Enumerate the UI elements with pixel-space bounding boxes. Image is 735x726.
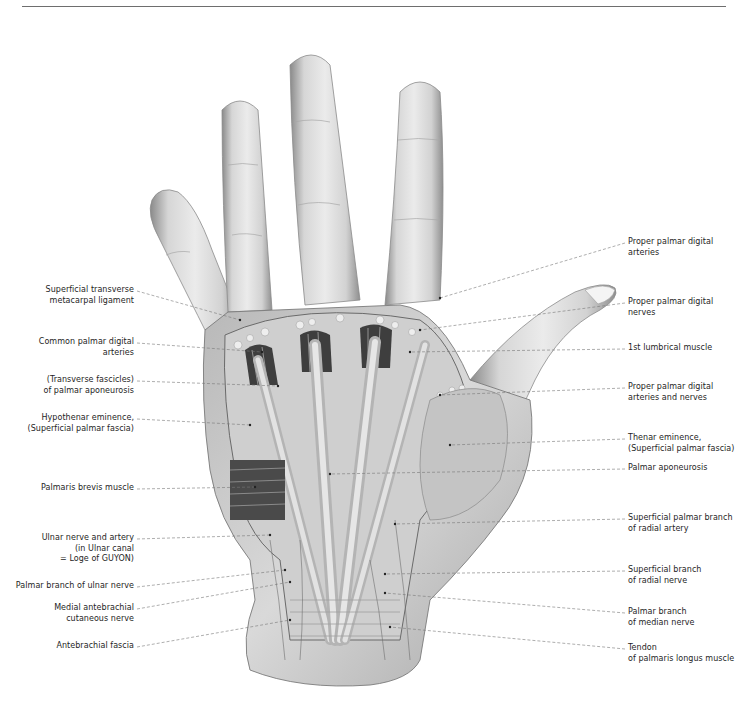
label-line: of radial artery xyxy=(628,524,733,535)
leader-line xyxy=(420,303,625,330)
leader-dot xyxy=(289,581,291,583)
leader-dot xyxy=(249,424,251,426)
label-line: arteries xyxy=(39,348,134,359)
leader-dot xyxy=(239,319,241,321)
label-tendon-palmaris-longus: Tendonof palmaris longus muscle xyxy=(628,643,734,664)
label-proper-palmar-digital-arteries-and-nerves: Proper palmar digitalarteries and nerves xyxy=(628,382,713,403)
leader-dot xyxy=(384,573,386,575)
leader-dot xyxy=(409,351,411,353)
leader-dot xyxy=(439,297,441,299)
leader-dot xyxy=(269,534,271,536)
label-line: Tendon xyxy=(628,643,734,654)
label-line: arteries xyxy=(628,248,713,259)
leader-line xyxy=(390,627,625,649)
label-antebrachial-fascia: Antebrachial fascia xyxy=(56,641,134,652)
label-line: 1st lumbrical muscle xyxy=(628,343,712,354)
label-line: Superficial palmar branch xyxy=(628,513,733,524)
label-palmar-aponeurosis: Palmar aponeurosis xyxy=(628,463,708,474)
label-line: cutaneous nerve xyxy=(54,614,134,625)
label-line: Common palmar digital xyxy=(39,337,134,348)
label-line: = Loge of GUYON) xyxy=(42,554,134,565)
label-line: Proper palmar digital xyxy=(628,382,713,393)
label-palmar-branch-ulnar-nerve: Palmar branch of ulnar nerve xyxy=(16,581,134,592)
label-line: Ulnar nerve and artery xyxy=(42,533,134,544)
label-line: Medial antebrachial xyxy=(54,603,134,614)
label-line: metacarpal ligament xyxy=(46,296,134,307)
label-thenar-eminence: Thenar eminence,(Superficial palmar fasc… xyxy=(628,433,735,454)
label-line: Palmaris brevis muscle xyxy=(41,483,134,494)
leader-dot xyxy=(449,444,451,446)
label-line: (Superficial palmar fascia) xyxy=(628,444,735,455)
label-1st-lumbrical-muscle: 1st lumbrical muscle xyxy=(628,343,712,354)
label-superficial-transverse-metacarpal-ligament: Superficial transversemetacarpal ligamen… xyxy=(46,285,134,306)
label-line: Proper palmar digital xyxy=(628,297,713,308)
label-palmar-branch-median-nerve: Palmar branchof median nerve xyxy=(628,607,694,628)
leader-dot xyxy=(394,523,396,525)
label-line: of palmaris longus muscle xyxy=(628,654,734,665)
leader-dot xyxy=(389,626,391,628)
leader-dot xyxy=(254,486,256,488)
leader-dot xyxy=(329,473,331,475)
label-superficial-branch-radial-nerve: Superficial branchof radial nerve xyxy=(628,565,701,586)
label-line: (in Ulnar canal xyxy=(42,544,134,555)
leader-dot xyxy=(289,619,291,621)
leader-dot xyxy=(439,394,441,396)
label-line: arteries and nerves xyxy=(628,393,713,404)
label-line: Hypothenar eminence, xyxy=(28,413,135,424)
leader-dot xyxy=(384,592,386,594)
leader-dot xyxy=(284,569,286,571)
label-line: Palmar branch of ulnar nerve xyxy=(16,581,134,592)
label-line: Palmar aponeurosis xyxy=(628,463,708,474)
label-line: of palmar aponeurosis xyxy=(43,386,134,397)
label-proper-palmar-digital-arteries: Proper palmar digitalarteries xyxy=(628,237,713,258)
label-line: Proper palmar digital xyxy=(628,237,713,248)
label-line: Antebrachial fascia xyxy=(56,641,134,652)
label-proper-palmar-digital-nerves: Proper palmar digitalnerves xyxy=(628,297,713,318)
label-line: of radial nerve xyxy=(628,576,701,587)
label-line: (Superficial palmar fascia) xyxy=(28,424,135,435)
label-line: (Transverse fascicles) xyxy=(43,375,134,386)
label-line: of median nerve xyxy=(628,618,694,629)
label-superficial-palmar-branch-radial-artery: Superficial palmar branchof radial arter… xyxy=(628,513,733,534)
fingers xyxy=(150,55,443,330)
label-hypothenar-eminence: Hypothenar eminence,(Superficial palmar … xyxy=(28,413,135,434)
label-medial-antebrachial-cutaneous-nerve: Medial antebrachialcutaneous nerve xyxy=(54,603,134,624)
label-palmaris-brevis-muscle: Palmaris brevis muscle xyxy=(41,483,134,494)
label-line: Superficial transverse xyxy=(46,285,134,296)
label-line: Superficial branch xyxy=(628,565,701,576)
leader-dot xyxy=(261,351,263,353)
label-line: Palmar branch xyxy=(628,607,694,618)
label-ulnar-nerve-and-artery: Ulnar nerve and artery(in Ulnar canal= L… xyxy=(42,533,134,565)
label-common-palmar-digital-arteries: Common palmar digitalarteries xyxy=(39,337,134,358)
leader-dot xyxy=(419,329,421,331)
label-transverse-fascicles-palmar-aponeurosis: (Transverse fascicles)of palmar aponeuro… xyxy=(43,375,134,396)
label-line: nerves xyxy=(628,308,713,319)
label-line: Thenar eminence, xyxy=(628,433,735,444)
leader-dot xyxy=(277,385,279,387)
